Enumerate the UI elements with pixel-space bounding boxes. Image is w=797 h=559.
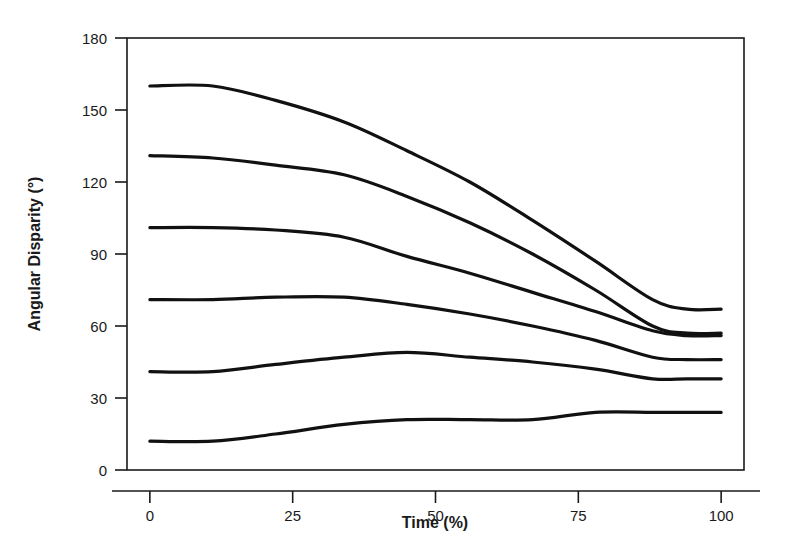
y-tick-label: 90 (90, 246, 107, 263)
x-tick-label: 0 (146, 507, 154, 524)
x-axis-title: Time (%) (402, 514, 468, 531)
x-tick-label: 100 (709, 507, 734, 524)
y-tick-label: 30 (90, 390, 107, 407)
y-tick-label: 0 (99, 462, 107, 479)
y-axis-title: Angular Disparity (°) (26, 177, 43, 332)
angular-disparity-line-chart: 0306090120150180 0255075100 Time (%) Ang… (0, 0, 797, 559)
chart-figure: 0306090120150180 0255075100 Time (%) Ang… (0, 0, 797, 559)
y-tick-label: 120 (82, 174, 107, 191)
y-tick-label: 180 (82, 30, 107, 47)
y-tick-label: 60 (90, 318, 107, 335)
y-tick-label: 150 (82, 102, 107, 119)
x-tick-label: 25 (284, 507, 301, 524)
x-tick-label: 75 (570, 507, 587, 524)
chart-background (0, 0, 797, 559)
